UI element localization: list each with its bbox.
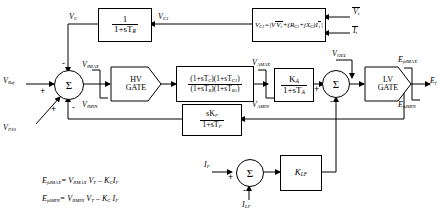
label-ilf: ILF — [242, 200, 250, 209]
main-summer-symbol: Σ — [66, 79, 72, 91]
label-vpss: VPSS — [3, 123, 16, 132]
current-summer-symbol: Σ — [247, 167, 253, 179]
label-if: IF — [204, 160, 210, 169]
lv-gate-line2: GATE — [378, 84, 398, 92]
regulator-denominator: 1+sTA — [281, 85, 307, 96]
label-vt-bar: Vt — [352, 7, 360, 17]
hv-gate-line2: GATE — [126, 84, 146, 92]
second-summing-junction: Σ — [322, 70, 350, 98]
current-summer-sign-bottom: - — [243, 185, 246, 195]
washout-numerator: sKF — [200, 110, 224, 119]
lead-lag-block: (1+sTC)(1+sTC1) (1+sTB)(1+sTB1) — [176, 66, 254, 102]
compensation-equation-text: VC1=|VVt+(RC1+jXC)It| — [255, 21, 323, 30]
lead-lag-denominator: (1+sTB)(1+sTB1) — [188, 84, 242, 94]
regulator-gain-block: KA 1+sTA — [274, 68, 314, 102]
transducer-numerator: 1 — [112, 15, 138, 24]
second-summer-symbol: Σ — [333, 78, 339, 90]
washout-block: sKF 1+sTF — [182, 104, 242, 136]
klf-gain-block: KLF — [280, 155, 322, 191]
label-vamax: VAMAX — [252, 58, 270, 67]
main-summer-sign-vref: + — [40, 86, 45, 96]
regulator-numerator: KA — [281, 75, 307, 85]
washout-denominator: 1+sTF — [200, 120, 224, 130]
second-summer-sign-left: + — [314, 84, 319, 94]
label-it-bar: It — [352, 26, 358, 36]
transducer-block: 1 1+sTR — [98, 8, 152, 42]
hv-gate: HV GATE — [110, 66, 162, 102]
lv-gate: LV GATE — [364, 66, 412, 102]
current-summing-junction: Σ — [236, 159, 264, 187]
label-vimax: VIMAX — [82, 60, 99, 69]
label-vc1: VC1 — [158, 12, 169, 21]
label-vc: VC — [69, 12, 77, 21]
label-efdmin: EfdMIN — [398, 100, 416, 109]
lead-lag-numerator: (1+sTC)(1+sTC1) — [188, 75, 242, 84]
block-diagram-canvas: 1 1+sTR VC1=|VVt+(RC1+jXC)It| (1+sTC)(1+… — [0, 0, 444, 222]
label-efdmax: EfdMAX — [398, 55, 417, 64]
label-voel: VOEL — [332, 49, 346, 58]
label-vimin: VIMIN — [82, 100, 98, 109]
second-summer-sign-bottom: - — [330, 96, 333, 106]
efdmax-equation: EfdMAX= VRMAX VT – KCIF — [42, 176, 118, 185]
efdmin-equation: EfdMIN= VRMIN VT – KC IF — [42, 194, 118, 203]
klf-label: KLF — [295, 168, 308, 178]
main-summer-sign-vpss: + — [51, 104, 56, 114]
current-summer-sign-left: + — [228, 172, 233, 182]
label-vamin: VAMIN — [252, 100, 269, 109]
main-summing-junction: Σ — [54, 70, 84, 100]
compensation-equation-block: VC1=|VVt+(RC1+jXC)It| — [252, 8, 326, 42]
main-summer-sign-top: - — [62, 58, 65, 68]
label-ef: Ef — [430, 76, 436, 85]
transducer-denominator: 1+sTR — [112, 24, 138, 35]
label-vref: VRef — [3, 76, 15, 85]
main-summer-sign-bottom: - — [72, 102, 75, 112]
